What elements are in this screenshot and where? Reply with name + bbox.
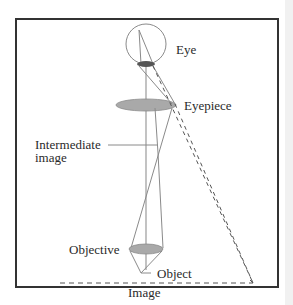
ray — [155, 108, 158, 153]
intermediate-image-label-2: image — [35, 150, 67, 165]
microscope-diagram: Eye Eyepiece Intermediate image Objectiv… — [0, 0, 293, 305]
ray — [158, 153, 163, 248]
eye-icon — [126, 24, 166, 64]
ray — [130, 251, 141, 273]
virtual-ray — [175, 104, 253, 283]
eyepiece-lens — [116, 99, 176, 111]
objective-lens — [129, 244, 163, 254]
image-label: Image — [128, 285, 161, 300]
object-label: Object — [157, 266, 192, 281]
eye-label: Eye — [176, 42, 196, 57]
eyepiece-label: Eyepiece — [184, 98, 232, 113]
objective-label: Objective — [69, 242, 120, 257]
ray — [139, 66, 172, 104]
ray — [131, 108, 172, 248]
ray — [153, 66, 175, 104]
